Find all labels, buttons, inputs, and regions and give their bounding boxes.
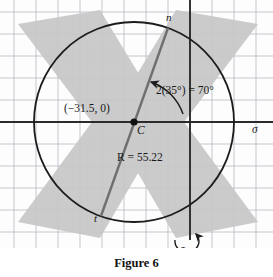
sigma-axis-label: σ xyxy=(252,124,258,136)
plot-area: (−31.5, 0) C 2(35°) = 70° R = 55.22 n t … xyxy=(0,0,273,248)
point-n-label: n xyxy=(166,12,172,23)
figure-caption: Figure 6 xyxy=(0,256,273,271)
angle-label: 2(35°) = 70° xyxy=(156,85,214,97)
radius-label: R = 55.22 xyxy=(117,152,163,164)
tau-axis-label: τ xyxy=(181,243,185,248)
center-coordinate-label: (−31.5, 0) xyxy=(64,103,110,115)
center-point-label: C xyxy=(137,125,145,137)
point-t-label: t xyxy=(94,213,97,224)
figure-6: (−31.5, 0) C 2(35°) = 70° R = 55.22 n t … xyxy=(0,0,273,277)
